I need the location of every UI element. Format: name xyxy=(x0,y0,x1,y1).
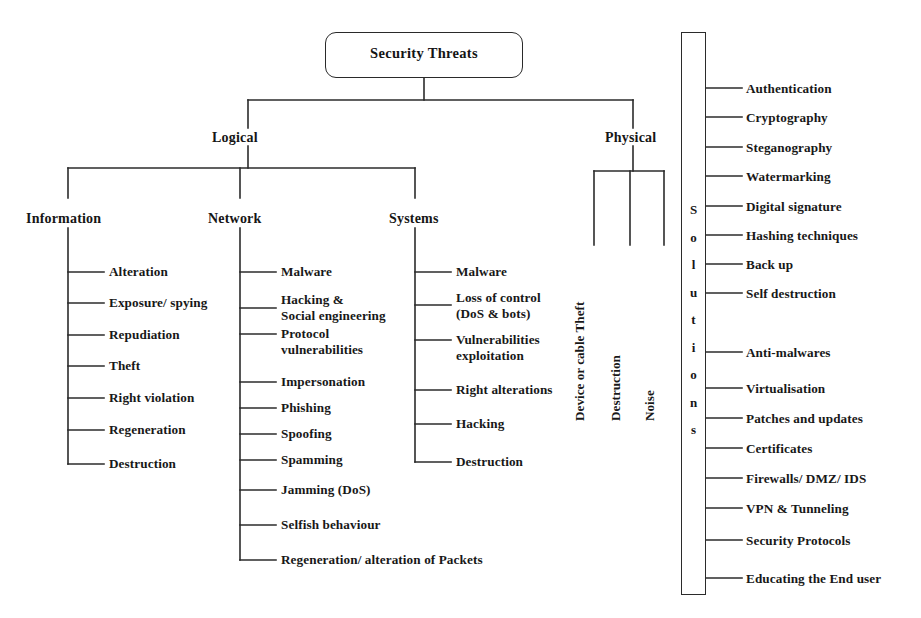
node-physical: Physical xyxy=(605,130,656,146)
leaf-network-6: Spoofing xyxy=(281,426,332,442)
leaf-information-6: Regeneration xyxy=(109,422,186,438)
solution-item-14: VPN & Tunneling xyxy=(746,501,849,517)
solutions-letter-2: l xyxy=(683,251,704,279)
leaf-information-4: Theft xyxy=(109,358,140,374)
leaf-information-1: Alteration xyxy=(109,264,168,280)
leaf-systems-3: Vulnerabilities exploitation xyxy=(456,332,540,363)
leaf-network-2: Hacking & Social engineering xyxy=(281,292,386,323)
diagram-canvas: Security Threats Logical Physical Inform… xyxy=(0,0,921,618)
solutions-letter-7: n xyxy=(683,389,704,417)
solutions-letter-5: i xyxy=(683,334,704,362)
solutions-letter-3: u xyxy=(683,279,704,307)
node-information: Information xyxy=(26,211,101,227)
solution-item-6: Hashing techniques xyxy=(746,228,858,244)
solution-item-2: Cryptography xyxy=(746,110,828,126)
solution-item-1: Authentication xyxy=(746,81,832,97)
leaf-systems-1: Malware xyxy=(456,264,507,280)
node-network: Network xyxy=(208,211,262,227)
leaf-network-7: Spamming xyxy=(281,452,343,468)
solution-item-16: Educating the End user xyxy=(746,571,881,587)
leaf-network-5: Phishing xyxy=(281,400,331,416)
leaf-network-4: Impersonation xyxy=(281,374,365,390)
leaf-systems-5: Hacking xyxy=(456,416,504,432)
solution-item-12: Certificates xyxy=(746,441,812,457)
leaf-systems-2: Loss of control (DoS & bots) xyxy=(456,290,541,321)
solution-item-11: Patches and updates xyxy=(746,411,863,427)
solution-item-7: Back up xyxy=(746,257,793,273)
leaf-network-8: Jamming (DoS) xyxy=(281,482,371,498)
leaf-systems-4: Right alterations xyxy=(456,382,553,398)
solution-item-8: Self destruction xyxy=(746,286,836,302)
solution-item-4: Watermarking xyxy=(746,169,831,185)
solutions-letter-8: s xyxy=(683,416,704,444)
leaf-network-1: Malware xyxy=(281,264,332,280)
solutions-vertical-label: S o l u t i o n s xyxy=(683,196,704,444)
leaf-network-10: Regeneration/ alteration of Packets xyxy=(281,552,483,568)
leaf-physical-3: Noise xyxy=(642,390,658,421)
solutions-letter-0: S xyxy=(683,196,704,224)
leaf-information-3: Repudiation xyxy=(109,327,180,343)
solutions-letter-4: t xyxy=(683,306,704,334)
leaf-information-5: Right violation xyxy=(109,390,194,406)
solution-item-3: Steganography xyxy=(746,140,832,156)
solutions-letter-1: o xyxy=(683,224,704,252)
leaf-systems-6: Destruction xyxy=(456,454,523,470)
root-node-label: Security Threats xyxy=(325,45,523,62)
solution-item-13: Firewalls/ DMZ/ IDS xyxy=(746,471,866,487)
solution-item-9: Anti-malwares xyxy=(746,345,831,361)
solutions-letter-6: o xyxy=(683,361,704,389)
leaf-network-3: Protocol vulnerabilities xyxy=(281,326,363,357)
leaf-network-9: Selfish behaviour xyxy=(281,517,381,533)
leaf-physical-2: Destruction xyxy=(608,355,624,421)
node-systems: Systems xyxy=(389,211,439,227)
solution-item-5: Digital signature xyxy=(746,199,842,215)
solution-item-10: Virtualisation xyxy=(746,381,825,397)
leaf-information-2: Exposure/ spying xyxy=(109,295,207,311)
node-logical: Logical xyxy=(212,130,258,146)
leaf-physical-1: Device or cable Theft xyxy=(572,302,588,421)
solution-item-15: Security Protocols xyxy=(746,533,850,549)
leaf-information-7: Destruction xyxy=(109,456,176,472)
